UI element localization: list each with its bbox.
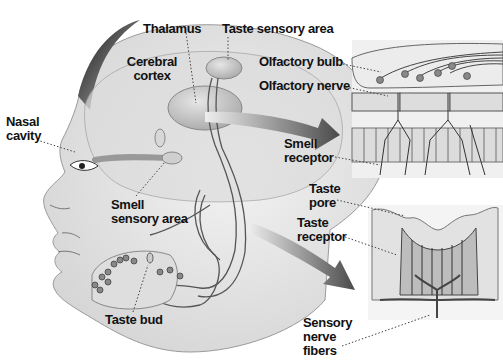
label-sensory-nerve-fibers-line2: nerve	[303, 330, 352, 344]
olfactory-inset	[352, 40, 503, 178]
illustration	[0, 0, 503, 360]
label-sensory-nerve-fibers-line3: fibers	[303, 344, 352, 358]
label-sensory-nerve-fibers-line1: Sensory	[303, 316, 352, 330]
label-taste-sensory-area: Taste sensory area	[222, 22, 333, 36]
label-taste-bud: Taste bud	[105, 313, 163, 327]
label-smell-receptor: Smell receptor	[284, 137, 334, 165]
label-taste-receptor-line1: Taste	[297, 216, 347, 230]
label-thalamus: Thalamus	[143, 22, 201, 36]
label-smell-sensory-area-line1: Smell	[111, 198, 188, 212]
label-sensory-nerve-fibers: Sensory nerve fibers	[303, 316, 352, 358]
label-cerebral-cortex-line1: Cerebral	[122, 55, 182, 69]
label-nasal-cavity-line1: Nasal	[6, 115, 41, 129]
taste-sensory-area-shape	[206, 57, 242, 79]
label-cerebral-cortex: Cerebral cortex	[122, 55, 182, 83]
label-olfactory-nerve: Olfactory nerve	[259, 79, 350, 93]
label-taste-receptor: Taste receptor	[297, 216, 347, 244]
label-taste-receptor-line2: receptor	[297, 230, 347, 244]
label-taste-pore-line2: pore	[309, 196, 341, 210]
label-smell-sensory-area-line2: sensory area	[111, 212, 188, 226]
label-nasal-cavity-line2: cavity	[6, 129, 41, 143]
label-smell-receptor-line2: receptor	[284, 151, 334, 165]
label-smell-receptor-line1: Smell	[284, 137, 334, 151]
taste-bud-inset	[368, 205, 503, 320]
label-taste-pore: Taste pore	[309, 182, 341, 210]
label-taste-pore-line1: Taste	[309, 182, 341, 196]
label-olfactory-bulb: Olfactory bulb	[259, 55, 343, 69]
label-cerebral-cortex-line2: cortex	[122, 69, 182, 83]
label-smell-sensory-area: Smell sensory area	[111, 198, 188, 226]
label-nasal-cavity: Nasal cavity	[6, 115, 41, 143]
